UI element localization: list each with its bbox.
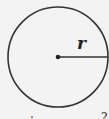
cut-text-right: ?: [101, 111, 107, 119]
radius-label: r: [77, 33, 86, 53]
circle-diagram: [0, 0, 109, 119]
cut-text-left: ·: [30, 111, 34, 119]
center-point: [56, 55, 61, 60]
